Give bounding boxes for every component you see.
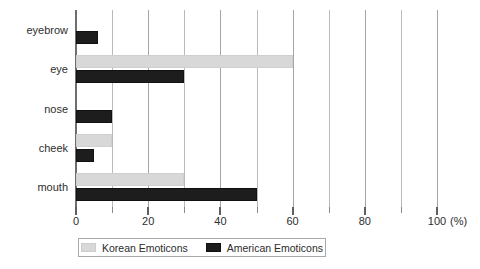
gridline-40 — [220, 10, 221, 207]
legend-swatch-korean-icon — [81, 243, 96, 252]
legend-swatch-american-icon — [206, 243, 221, 252]
legend-label-korean: Korean Emoticons — [102, 242, 188, 254]
gridline-30 — [184, 10, 185, 207]
bar-chart: 020406080100(%) eyebroweyenosecheekmouth… — [0, 0, 480, 269]
gridline-100 — [437, 10, 438, 207]
x-axis-unit-label: (%) — [450, 215, 467, 227]
legend-item-american: American Emoticons — [206, 242, 323, 254]
bar-eye-korean — [76, 55, 293, 68]
bar-eyebrow-american — [76, 31, 98, 44]
tick-mark-60 — [292, 207, 294, 215]
bar-eye-american — [76, 70, 184, 83]
tick-mark-70 — [329, 207, 330, 213]
category-label-nose: nose — [0, 103, 68, 115]
tick-mark-50 — [257, 207, 258, 213]
x-tick-label-60: 60 — [286, 215, 298, 227]
bar-cheek-korean — [76, 134, 112, 147]
tick-mark-80 — [364, 207, 366, 215]
tick-mark-100 — [436, 207, 438, 215]
tick-mark-20 — [147, 207, 149, 215]
gridline-60 — [293, 10, 294, 207]
tick-mark-30 — [184, 207, 185, 213]
tick-mark-10 — [112, 207, 113, 213]
category-label-eyebrow: eyebrow — [0, 24, 68, 36]
x-tick-label-100: 100 — [428, 215, 446, 227]
gridline-70 — [329, 10, 330, 207]
x-tick-label-40: 40 — [214, 215, 226, 227]
bar-mouth-american — [76, 188, 257, 201]
tick-mark-90 — [401, 207, 402, 213]
gridline-50 — [257, 10, 258, 207]
category-label-mouth: mouth — [0, 181, 68, 193]
bar-nose-american — [76, 110, 112, 123]
legend-item-korean: Korean Emoticons — [81, 242, 188, 254]
legend-label-american: American Emoticons — [227, 242, 323, 254]
bar-mouth-korean — [76, 173, 184, 186]
category-label-eye: eye — [0, 63, 68, 75]
gridline-80 — [365, 10, 366, 207]
tick-mark-40 — [219, 207, 221, 215]
bar-cheek-american — [76, 149, 94, 162]
tick-mark-0 — [75, 207, 77, 215]
x-tick-label-0: 0 — [73, 215, 79, 227]
chart-legend: Korean Emoticons American Emoticons — [78, 238, 326, 257]
x-tick-label-20: 20 — [142, 215, 154, 227]
x-tick-label-80: 80 — [359, 215, 371, 227]
gridline-90 — [401, 10, 402, 207]
category-label-cheek: cheek — [0, 142, 68, 154]
